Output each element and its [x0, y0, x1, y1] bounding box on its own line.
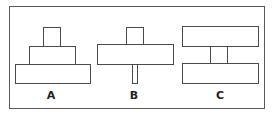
b-stem: [132, 64, 138, 84]
a-bottom-block: [15, 64, 91, 84]
c-bottom-slab: [182, 63, 259, 84]
a-middle-block: [29, 46, 76, 65]
label-b: B: [124, 89, 144, 102]
label-c: C: [210, 89, 230, 102]
b-wide-slab: [97, 44, 174, 65]
c-top-slab: [182, 26, 259, 47]
label-a: A: [41, 89, 61, 102]
c-connector: [210, 46, 228, 64]
a-top-block: [43, 27, 61, 47]
b-top-block: [126, 27, 144, 45]
